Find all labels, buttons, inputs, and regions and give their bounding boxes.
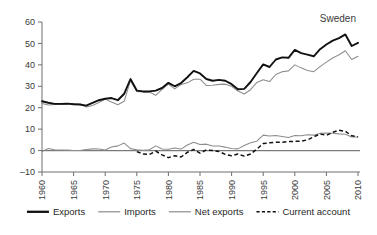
- y-tick-label: 20: [25, 103, 35, 113]
- y-axis-ticks: 6050403020100–10: [20, 17, 42, 177]
- y-tick-label: 50: [25, 39, 35, 49]
- legend-label-net: Net exports: [195, 206, 244, 217]
- x-tick-label: 1975: [132, 180, 142, 200]
- y-tick-label: 60: [25, 17, 35, 27]
- x-tick-label: 2000: [290, 180, 300, 200]
- y-tick-label: 10: [25, 124, 35, 134]
- x-tick-label: 1970: [101, 180, 111, 200]
- x-axis-ticks: 1960196519701975198019851990199520002005…: [37, 172, 363, 200]
- chart-legend: ExportsImportsNet exportsCurrent account: [27, 206, 350, 217]
- legend-label-imports: Imports: [124, 206, 156, 217]
- chart-title: Sweden: [320, 13, 356, 24]
- x-tick-label: 1995: [259, 180, 269, 200]
- x-tick-label: 2005: [322, 180, 332, 200]
- x-tick-label: 1965: [69, 180, 79, 200]
- y-tick-label: –10: [20, 167, 35, 177]
- series-line-net-exports: [42, 133, 358, 151]
- x-tick-label: 1985: [195, 180, 205, 200]
- series-line-exports: [42, 34, 358, 105]
- legend-label-ca: Current account: [282, 206, 350, 217]
- y-tick-label: 0: [30, 146, 35, 156]
- series-container: [42, 34, 358, 157]
- y-tick-label: 40: [25, 60, 35, 70]
- line-chart: Sweden 6050403020100–10 1960196519701975…: [0, 0, 377, 235]
- series-line-imports: [42, 51, 358, 107]
- legend-label-exports: Exports: [53, 206, 85, 217]
- y-tick-label: 30: [25, 81, 35, 91]
- x-tick-label: 1980: [164, 180, 174, 200]
- x-tick-label: 1960: [37, 180, 47, 200]
- chart-figure: Sweden 6050403020100–10 1960196519701975…: [0, 0, 377, 235]
- x-tick-label: 1990: [227, 180, 237, 200]
- x-tick-label: 2010: [353, 180, 363, 200]
